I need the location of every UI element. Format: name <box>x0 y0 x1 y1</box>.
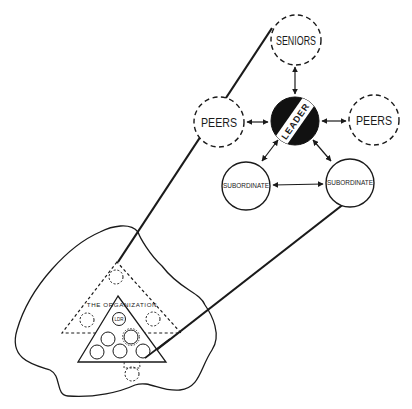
subordinate-left-label: SUBORDINATE <box>223 182 270 189</box>
peers-right-label: PEERS <box>356 113 392 128</box>
formal-member <box>124 330 138 344</box>
organization-label: THE ORGANIZATION <box>87 301 157 308</box>
diagram-canvas: THE ORGANIZATION LDR SENIORS PEERS PEERS… <box>0 0 412 409</box>
informal-member-right <box>146 312 160 326</box>
informal-member-left <box>80 313 94 327</box>
formal-member <box>101 332 115 346</box>
peers-left-label: PEERS <box>201 115 237 130</box>
zoom-line-lower <box>150 203 345 355</box>
formal-member <box>113 344 127 358</box>
informal-member-top <box>109 270 123 284</box>
formal-member <box>90 345 104 359</box>
zoom-line-upper <box>118 28 272 262</box>
leader-node: LEADER <box>271 92 319 149</box>
arrow-leader-subordinate-left <box>262 140 278 161</box>
subordinate-right-label: SUBORDINATE <box>327 179 374 186</box>
org-leader-label: LDR <box>114 317 124 322</box>
informal-member-bottom <box>125 367 139 381</box>
seniors-label: SENIORS <box>276 34 316 48</box>
arrow-subordinate-left-right <box>273 184 323 185</box>
arrow-leader-subordinate-right <box>313 140 331 161</box>
